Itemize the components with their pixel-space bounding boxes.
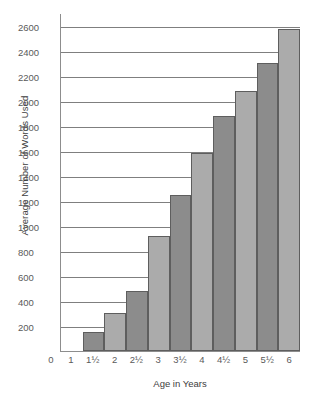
bar [104, 313, 126, 351]
x-axis-tick-label: 2 [104, 354, 126, 365]
bar-slot [126, 14, 148, 351]
x-axis-tick-label: 1 [60, 354, 82, 365]
x-axis-title: Age in Years [60, 378, 300, 389]
bar [83, 332, 105, 351]
y-axis-tick-label: 600 [18, 271, 56, 282]
bar-series [61, 14, 300, 351]
y-axis-tick-label: 1000 [18, 221, 56, 232]
x-axis-tick-label: 4 [191, 354, 213, 365]
y-axis-tick-label: 200 [18, 321, 56, 332]
plot-area [60, 14, 300, 352]
bar-slot [148, 14, 170, 351]
bar [278, 29, 300, 351]
y-axis-tick-label: 2600 [18, 21, 56, 32]
bar [191, 153, 213, 351]
x-axis-tick-label: 5 [235, 354, 257, 365]
bar [148, 236, 170, 351]
x-axis-tick-label: 5½ [256, 354, 278, 365]
bar-slot [191, 14, 213, 351]
x-axis-tick-label: 3 [147, 354, 169, 365]
y-axis-tick-label: 2200 [18, 71, 56, 82]
y-axis-tick-label: 1200 [18, 196, 56, 207]
bar [213, 116, 235, 351]
bar [170, 195, 192, 351]
x-axis-tick-label: 4½ [213, 354, 235, 365]
bar-slot [104, 14, 126, 351]
y-axis-tick-labels: 2004006008001000120014001600180020002200… [18, 14, 56, 352]
bar [235, 91, 257, 351]
bar-slot [61, 14, 83, 351]
bar-slot [213, 14, 235, 351]
x-axis-tick-label: 1½ [82, 354, 104, 365]
x-axis-tick-label: 6 [278, 354, 300, 365]
bar-slot [235, 14, 257, 351]
bar-slot [257, 14, 279, 351]
y-axis-tick-label: 1400 [18, 171, 56, 182]
bar-chart-figure: Average Number of Words Used 20040060080… [0, 0, 316, 411]
bar-slot [278, 14, 300, 351]
bar-slot [170, 14, 192, 351]
y-axis-tick-label: 800 [18, 246, 56, 257]
y-axis-tick-label: 1800 [18, 121, 56, 132]
x-axis-tick-label: 3½ [169, 354, 191, 365]
bar [257, 63, 279, 351]
y-axis-tick-label: 2400 [18, 46, 56, 57]
y-axis-tick-label: 2000 [18, 96, 56, 107]
x-axis-tick-label: 2½ [125, 354, 147, 365]
bar [126, 291, 148, 351]
bar-slot [83, 14, 105, 351]
y-axis-tick-label: 1600 [18, 146, 56, 157]
y-axis-tick-label: 400 [18, 296, 56, 307]
axis-origin-label: 0 [44, 354, 58, 365]
x-axis-tick-labels: 11½22½33½44½55½6 [60, 354, 300, 365]
